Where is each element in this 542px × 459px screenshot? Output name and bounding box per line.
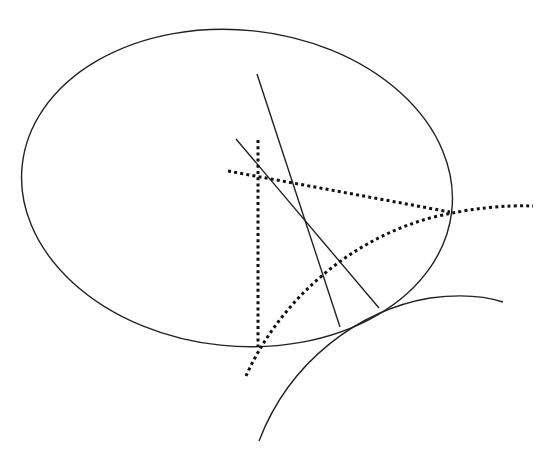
dotted-horizontal-line: [228, 171, 450, 212]
ellipse: [6, 8, 469, 367]
tangent-circle-arc: [259, 296, 503, 441]
geometry-diagram: [0, 0, 542, 459]
dotted-arc: [246, 206, 533, 376]
solid-line-1: [257, 74, 340, 327]
